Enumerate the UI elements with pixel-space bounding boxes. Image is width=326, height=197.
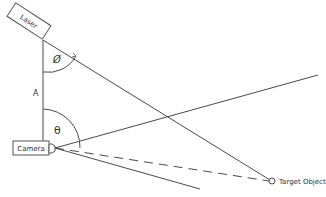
camera-device: Camera — [13, 141, 55, 155]
camera-lens-icon — [49, 144, 55, 153]
target-point-icon — [269, 178, 275, 184]
camera-fov-lower-ray — [55, 148, 200, 189]
laser-device: Laser — [7, 3, 51, 39]
triangulation-diagram: Laser A Ø θ Camera Target Object — [0, 0, 326, 197]
laser-arc-arrow-icon — [72, 53, 76, 57]
camera-angle-label: θ — [54, 124, 61, 137]
laser-beam — [43, 40, 270, 180]
camera-label: Camera — [17, 145, 44, 153]
baseline-label: A — [33, 89, 39, 98]
camera-fov-upper-ray — [55, 75, 318, 148]
target-label: Target Object — [278, 178, 326, 186]
camera-sight-line — [55, 148, 269, 181]
laser-angle-label: Ø — [52, 54, 62, 65]
